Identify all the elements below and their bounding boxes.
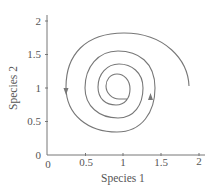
x-tick-label: 0 [45,158,51,170]
y-tick-label: 0 [36,149,42,161]
x-tick-label: 2 [196,155,202,167]
x-tick-label: 1.5 [154,156,168,168]
direction-arrow-down-icon [64,88,69,95]
y-tick-label: 1 [36,82,42,94]
trajectory-curve [66,33,189,132]
x-tick-label: 0.5 [79,156,93,168]
y-tick-label: 2 [36,15,42,27]
direction-arrow-up-icon [148,93,153,100]
phase-plane-chart: 2 1.5 1 0.5 0 0 0.5 1 1.5 2 Species 1 Sp… [0,0,215,195]
x-tick-label: 1 [120,156,126,168]
y-tick-label: 1.5 [27,48,41,60]
y-axis-label: Species 2 [7,66,20,110]
x-axis-label: Species 1 [101,172,145,185]
y-tick-label: 0.5 [27,115,41,127]
